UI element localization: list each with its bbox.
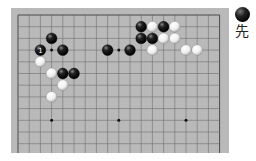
white-stone[interactable] [158,33,169,44]
turn-indicator: 先 [231,4,253,39]
star-point [50,49,53,52]
star-point [117,49,120,52]
black-stone[interactable] [147,33,158,44]
white-stone[interactable] [35,56,46,67]
black-stone[interactable] [125,45,136,56]
black-stone[interactable] [69,68,80,79]
white-stone[interactable] [169,21,180,32]
black-stone[interactable]: 1 [35,45,46,56]
white-stone[interactable] [147,45,158,56]
white-stone[interactable] [46,68,57,79]
white-stone[interactable] [169,33,180,44]
white-stone[interactable] [147,21,158,32]
go-board[interactable]: 1 [11,8,229,153]
black-stone[interactable] [158,21,169,32]
black-stone[interactable] [102,45,113,56]
star-point [185,119,188,122]
turn-label: 先 [231,23,253,39]
stone-move-number: 1 [38,47,42,55]
black-stone[interactable] [46,33,57,44]
white-stone[interactable] [192,45,203,56]
board-grid[interactable]: 1 [11,8,229,153]
star-point [117,119,120,122]
black-stone[interactable] [57,45,68,56]
black-stone[interactable] [136,33,147,44]
black-stone[interactable] [57,68,68,79]
black-stone[interactable] [136,21,147,32]
white-stone[interactable] [46,92,57,103]
star-point [50,119,53,122]
white-stone[interactable] [57,80,68,91]
black-stone-icon [235,7,250,22]
white-stone[interactable] [181,45,192,56]
